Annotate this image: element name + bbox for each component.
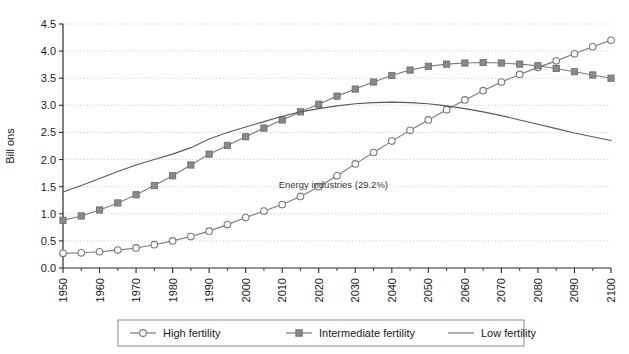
y-axis-tick-label: 2.5 bbox=[41, 126, 56, 138]
data-point-marker bbox=[188, 233, 195, 240]
y-axis-tick-label: 2.0 bbox=[41, 154, 56, 166]
data-point-marker bbox=[370, 79, 376, 85]
x-axis-tick-label: 1960 bbox=[94, 278, 106, 302]
data-point-marker bbox=[279, 117, 285, 123]
data-point-marker bbox=[571, 69, 577, 75]
data-point-marker bbox=[60, 250, 67, 257]
data-point-marker bbox=[133, 245, 140, 252]
data-point-marker bbox=[188, 162, 194, 168]
data-point-marker bbox=[498, 60, 504, 66]
data-point-marker bbox=[370, 149, 377, 156]
data-point-marker bbox=[169, 238, 176, 245]
y-axis-title-group: Bill ons bbox=[4, 128, 16, 164]
y-axis-tick-label: 1.0 bbox=[41, 208, 56, 220]
data-point-marker bbox=[78, 250, 85, 257]
legend-item-label: Intermediate fertility bbox=[319, 327, 415, 339]
data-point-marker bbox=[462, 97, 469, 104]
data-point-marker bbox=[151, 241, 158, 248]
data-point-marker bbox=[589, 43, 596, 50]
data-point-marker bbox=[224, 221, 231, 228]
data-point-marker bbox=[517, 61, 523, 67]
data-point-marker bbox=[224, 142, 230, 148]
x-axis-tick-label: 2060 bbox=[459, 278, 471, 302]
data-point-marker bbox=[316, 101, 322, 107]
data-point-marker bbox=[516, 71, 523, 78]
data-point-marker bbox=[608, 37, 615, 44]
x-axis-tick-label: 2020 bbox=[313, 278, 325, 302]
x-axis-tick-label: 2080 bbox=[532, 278, 544, 302]
data-point-marker bbox=[352, 161, 359, 168]
data-point-marker bbox=[243, 134, 249, 140]
data-point-marker bbox=[425, 117, 432, 124]
data-point-marker bbox=[151, 182, 157, 188]
population-projection-line-chart: 0.00.51.01.52.02.53.03.54.04.5 195019601… bbox=[0, 0, 629, 354]
data-point-marker bbox=[96, 207, 102, 213]
y-axis-tick-label: 3.5 bbox=[41, 72, 56, 84]
y-axis-tick-label: 0.0 bbox=[41, 262, 56, 274]
data-point-marker bbox=[480, 87, 487, 94]
data-point-marker bbox=[389, 138, 396, 145]
legend-marker-circle-icon bbox=[140, 330, 147, 337]
data-point-marker bbox=[407, 67, 413, 73]
x-axis-tick-label: 2000 bbox=[240, 278, 252, 302]
x-axis-tick-label: 2050 bbox=[422, 278, 434, 302]
y-axis-title: Bill ons bbox=[4, 128, 16, 164]
data-point-marker bbox=[553, 58, 560, 65]
data-point-marker bbox=[261, 208, 268, 215]
data-point-marker bbox=[279, 201, 286, 208]
data-point-marker bbox=[462, 60, 468, 66]
y-axis-tick-label: 4.5 bbox=[41, 18, 56, 30]
data-point-marker bbox=[60, 217, 66, 223]
data-point-marker bbox=[206, 228, 213, 235]
legend-item-label: Low fertility bbox=[481, 327, 537, 339]
x-axis-tick-label: 2090 bbox=[568, 278, 580, 302]
data-point-marker bbox=[498, 79, 505, 86]
x-axis-tick-label: 1950 bbox=[57, 278, 69, 302]
data-point-marker bbox=[571, 51, 578, 58]
data-point-marker bbox=[480, 59, 486, 65]
data-point-marker bbox=[608, 75, 614, 81]
data-point-marker bbox=[590, 72, 596, 78]
data-point-marker bbox=[170, 173, 176, 179]
chart-legend: High fertilityIntermediate fertilityLow … bbox=[118, 320, 537, 346]
x-axis-tick-label: 1970 bbox=[130, 278, 142, 302]
data-point-marker bbox=[297, 193, 304, 200]
chart-container: 0.00.51.01.52.02.53.03.54.04.5 195019601… bbox=[0, 0, 629, 354]
x-axis-tick-label: 1980 bbox=[167, 278, 179, 302]
x-axis-tick-label: 2040 bbox=[386, 278, 398, 302]
data-point-marker bbox=[444, 61, 450, 67]
data-point-marker bbox=[535, 63, 541, 69]
x-axis-tick-label: 2070 bbox=[495, 278, 507, 302]
data-point-marker bbox=[261, 125, 267, 131]
y-axis-tick-label: 1.5 bbox=[41, 181, 56, 193]
data-point-marker bbox=[242, 214, 249, 221]
annotation-label: Energy industries (29.2%) bbox=[279, 179, 388, 190]
data-point-marker bbox=[78, 213, 84, 219]
x-axis-tick-label: 2100 bbox=[605, 278, 617, 302]
legend-marker-square-icon bbox=[296, 330, 302, 336]
data-point-marker bbox=[553, 65, 559, 71]
data-point-marker bbox=[115, 200, 121, 206]
data-point-marker bbox=[133, 192, 139, 198]
data-point-marker bbox=[206, 151, 212, 157]
data-point-marker bbox=[334, 173, 341, 180]
x-axis-tick-label: 2010 bbox=[276, 278, 288, 302]
x-axis-tick-label: 1990 bbox=[203, 278, 215, 302]
data-point-marker bbox=[389, 72, 395, 78]
y-axis-tick-label: 0.5 bbox=[41, 235, 56, 247]
data-point-marker bbox=[334, 93, 340, 99]
x-axis-tick-label: 2030 bbox=[349, 278, 361, 302]
data-point-marker bbox=[115, 247, 122, 254]
y-axis-tick-label: 4.0 bbox=[41, 45, 56, 57]
data-point-marker bbox=[407, 127, 414, 134]
data-point-marker bbox=[443, 106, 450, 113]
data-point-marker bbox=[96, 248, 103, 255]
data-point-marker bbox=[352, 86, 358, 92]
legend-item-label: High fertility bbox=[163, 327, 221, 339]
data-point-marker bbox=[425, 63, 431, 69]
y-axis-tick-label: 3.0 bbox=[41, 99, 56, 111]
chart-annotations: Energy industries (29.2%) bbox=[279, 179, 388, 190]
